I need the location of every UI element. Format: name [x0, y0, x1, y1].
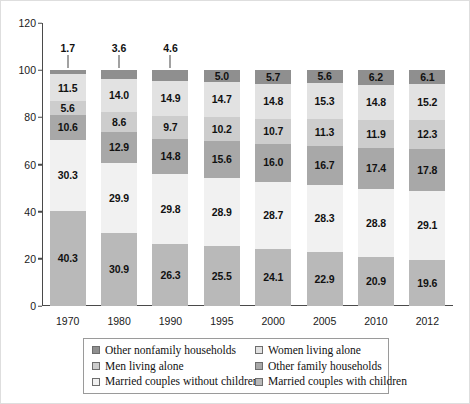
- x-axis-tick-label: 1990: [159, 306, 182, 327]
- bar-segment-value: 11.5: [58, 83, 77, 94]
- bar-segment[interactable]: 16.7: [307, 146, 343, 185]
- bar-segment[interactable]: 14.8: [152, 139, 188, 174]
- bar-segment[interactable]: 11.9: [358, 120, 394, 148]
- bar-segment-value: 9.7: [163, 122, 177, 133]
- bar-segment-value: 30.3: [58, 170, 78, 181]
- bar-segment[interactable]: 14.8: [358, 85, 394, 120]
- bar-segment[interactable]: 5.7: [255, 70, 291, 83]
- bar-segment-value: 5.6: [61, 103, 75, 114]
- bar-segment[interactable]: 20.9: [358, 257, 394, 306]
- bar-segment[interactable]: 17.8: [409, 149, 445, 191]
- bar-segment[interactable]: 40.3: [50, 211, 86, 306]
- bar-segment[interactable]: 29.1: [409, 191, 445, 260]
- legend-label: Women living alone: [268, 344, 361, 357]
- bar-segment[interactable]: 9.7: [152, 116, 188, 139]
- bar-segment[interactable]: 15.3: [307, 83, 343, 119]
- bar-segment-external-label: 1.7: [60, 42, 75, 54]
- bar-segment[interactable]: 5.0: [204, 70, 240, 82]
- bar-segment[interactable]: 12.3: [409, 120, 445, 149]
- bar-segment[interactable]: 6.2: [358, 70, 394, 85]
- bar-segment[interactable]: 12.9: [101, 132, 137, 162]
- bar-segment[interactable]: 17.4: [358, 148, 394, 189]
- legend-item[interactable]: Married couples with children: [255, 375, 407, 388]
- bar-segment-value: 5.7: [266, 72, 280, 83]
- bar-segment[interactable]: 14.9: [152, 81, 188, 116]
- bar-segment-value: 28.9: [212, 207, 232, 218]
- bar-segment[interactable]: 6.1: [409, 70, 445, 84]
- bar-segment[interactable]: 15.6: [204, 141, 240, 178]
- bar-segment-value: 28.8: [366, 218, 386, 229]
- bar-segment[interactable]: 10.7: [255, 119, 291, 144]
- bar-segment[interactable]: 11.3: [307, 119, 343, 146]
- x-axis-tick-label: 1980: [107, 306, 130, 327]
- legend-item[interactable]: Men living alone: [92, 360, 255, 373]
- bar-segment[interactable]: 5.6: [50, 101, 86, 114]
- bar-column[interactable]: 24.128.716.010.714.85.72000: [255, 70, 291, 306]
- bar-segment-value: 14.8: [263, 96, 283, 107]
- bar-segment[interactable]: 15.2: [409, 84, 445, 120]
- bar-segment[interactable]: 5.6: [307, 70, 343, 83]
- bar-segment[interactable]: 11.5: [50, 74, 86, 101]
- bar-segment[interactable]: 22.9: [307, 252, 343, 306]
- bar-segment[interactable]: 14.7: [204, 82, 240, 117]
- legend-item[interactable]: Other nonfamily households: [92, 344, 255, 357]
- bar-segment[interactable]: 28.3: [307, 185, 343, 252]
- bar-segment[interactable]: 26.3: [152, 244, 188, 306]
- x-axis-tick-label: 2000: [262, 306, 285, 327]
- legend-swatch: [255, 378, 263, 386]
- bar-segment[interactable]: 30.3: [50, 140, 86, 211]
- bar-segment-value: 17.8: [417, 165, 437, 176]
- legend-label: Other nonfamily households: [105, 344, 236, 357]
- bar-column[interactable]: 22.928.316.711.315.35.62005: [307, 70, 343, 306]
- bar-segment[interactable]: 14.0: [101, 79, 137, 112]
- bar-segment[interactable]: 19.6: [409, 260, 445, 306]
- legend-swatch: [92, 346, 100, 354]
- bar-segment[interactable]: 8.6: [101, 112, 137, 132]
- bar-segment-value: 29.8: [160, 204, 180, 215]
- bar-column[interactable]: 26.329.814.89.714.94.61990: [152, 70, 188, 306]
- bar-segment-value: 15.2: [417, 97, 437, 108]
- legend-item[interactable]: Other family households: [255, 360, 407, 373]
- x-axis-tick-label: 2005: [313, 306, 336, 327]
- bar-segment-value: 10.6: [58, 122, 78, 133]
- bar-segment[interactable]: 10.6: [50, 115, 86, 140]
- bar-segment[interactable]: 10.2: [204, 117, 240, 141]
- bar-segment[interactable]: 28.8: [358, 189, 394, 257]
- bar-segment-value: 29.9: [109, 193, 129, 204]
- bar-segment[interactable]: 29.8: [152, 174, 188, 244]
- bar-segment-value: 11.9: [366, 129, 385, 140]
- bar-segment[interactable]: 16.0: [255, 144, 291, 182]
- bar-segment[interactable]: 28.9: [204, 178, 240, 246]
- bar-segment[interactable]: [50, 70, 86, 74]
- bar-segment[interactable]: 24.1: [255, 249, 291, 306]
- legend-item[interactable]: Women living alone: [255, 344, 407, 357]
- bar-column[interactable]: 30.929.912.98.614.03.61980: [101, 70, 137, 306]
- bar-segment-external-label: 3.6: [112, 42, 127, 54]
- legend-swatch: [255, 346, 263, 354]
- legend-swatch: [92, 378, 100, 386]
- legend-label: Married couples with children: [268, 375, 407, 388]
- bar-segment-value: 12.3: [417, 129, 437, 140]
- x-axis-tick-label: 2010: [364, 306, 387, 327]
- legend-item[interactable]: Married couples without children: [92, 375, 255, 388]
- bar-segment-value: 8.6: [112, 117, 126, 128]
- bar-segment[interactable]: [152, 70, 188, 81]
- bar-segment-value: 25.5: [212, 271, 232, 282]
- bar-segment[interactable]: 29.9: [101, 163, 137, 234]
- bar-segment[interactable]: 28.7: [255, 182, 291, 250]
- bar-segment-value: 20.9: [366, 276, 386, 287]
- bar-column[interactable]: 25.528.915.610.214.75.01995: [204, 70, 240, 306]
- bar-segment[interactable]: [101, 70, 137, 78]
- bar-segment-value: 6.2: [369, 72, 383, 83]
- bar-segment-value: 5.6: [317, 71, 331, 82]
- bar-segment-value: 14.9: [160, 93, 180, 104]
- bar-column[interactable]: 19.629.117.812.315.26.12012: [409, 70, 445, 306]
- bar-column[interactable]: 20.928.817.411.914.86.22010: [358, 70, 394, 306]
- bar-column[interactable]: 40.330.310.65.611.51.71970: [50, 70, 86, 306]
- bar-segment[interactable]: 30.9: [101, 233, 137, 306]
- bar-segment[interactable]: 25.5: [204, 246, 240, 306]
- bar-segment[interactable]: 14.8: [255, 84, 291, 119]
- bar-segment-value: 22.9: [315, 274, 335, 285]
- legend-label: Married couples without children: [105, 375, 259, 388]
- bar-segment-value: 40.3: [58, 253, 78, 264]
